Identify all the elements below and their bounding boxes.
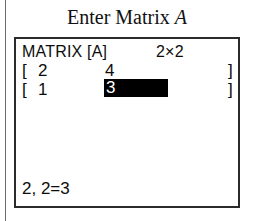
calculator-screen: MATRIX [A] 2×2 [ 2 4 ] [ 1 3 ] 2, 2=3 xyxy=(14,37,240,208)
figure-caption: Enter Matrix A xyxy=(14,3,240,31)
bracket-close-icon: ] xyxy=(228,61,238,80)
matrix-dimensions-label: 2×2 xyxy=(156,42,184,62)
bracket-open-icon: [ xyxy=(22,80,32,99)
bracket-open-icon: [ xyxy=(22,61,32,80)
matrix-header-row: MATRIX [A] 2×2 xyxy=(22,42,234,62)
caption-variable: A xyxy=(175,6,187,28)
matrix-cell-2-1[interactable]: 1 xyxy=(38,80,94,99)
entry-status-line: 2, 2=3 xyxy=(22,179,70,199)
lcd-display: MATRIX [A] 2×2 [ 2 4 ] [ 1 3 ] 2, 2=3 xyxy=(16,39,238,206)
caption-text: Enter Matrix xyxy=(67,6,170,28)
page-margin-rule xyxy=(5,0,6,221)
matrix-cell-1-1[interactable]: 2 xyxy=(38,61,94,80)
matrix-name-label: MATRIX [A] xyxy=(22,42,107,62)
matrix-cell-1-2[interactable]: 4 xyxy=(105,61,175,80)
page: Enter Matrix A MATRIX [A] 2×2 [ 2 4 ] [ … xyxy=(0,0,256,221)
matrix-row: [ 2 4 ] xyxy=(22,61,234,80)
matrix-row: [ 1 3 ] xyxy=(22,80,234,99)
bracket-close-icon: ] xyxy=(228,80,238,99)
matrix-cell-2-2-selected[interactable]: 3 xyxy=(104,79,168,97)
